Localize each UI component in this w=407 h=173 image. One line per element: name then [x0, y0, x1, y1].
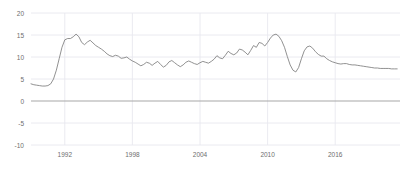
y-axis-tick-label: 10 [6, 54, 24, 61]
y-axis-tick-label: 5 [6, 76, 24, 83]
x-axis-tick-label: 2010 [253, 151, 283, 158]
grid-lines [31, 13, 400, 145]
chart-canvas [0, 0, 407, 173]
line-chart: -10-505101520 19921998200420102016 [0, 0, 407, 173]
x-axis-tick-label: 2016 [320, 151, 350, 158]
x-axis-tick-label: 2004 [185, 151, 215, 158]
series-line [31, 34, 397, 86]
x-axis-tick-label: 1998 [117, 151, 147, 158]
y-axis-tick-label: -10 [6, 142, 24, 149]
y-axis-tick-label: 0 [6, 98, 24, 105]
data-series [31, 34, 397, 86]
x-axis-tick-label: 1992 [50, 151, 80, 158]
y-axis-tick-label: 20 [6, 10, 24, 17]
y-axis-tick-label: -5 [6, 120, 24, 127]
y-axis-tick-label: 15 [6, 32, 24, 39]
